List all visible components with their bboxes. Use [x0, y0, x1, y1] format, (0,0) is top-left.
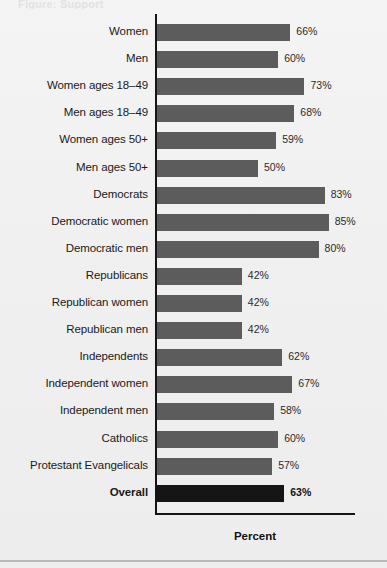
bar-value-label: 42% [248, 266, 269, 285]
bar-row: Catholics60% [0, 431, 387, 448]
x-axis-line [155, 513, 355, 515]
bar-value-label: 63% [290, 483, 311, 502]
bar [157, 241, 319, 258]
bar-row: Women ages 18–4973% [0, 78, 387, 95]
bar-value-label: 60% [284, 429, 305, 448]
bar-row: Independent men58% [0, 403, 387, 420]
bar-row: Republican men42% [0, 322, 387, 339]
bar-value-label: 57% [278, 456, 299, 475]
bar [157, 214, 329, 231]
bar-chart-figure: Figure: Support Women66%Men60%Women ages… [0, 0, 387, 568]
bar-value-label: 83% [331, 185, 352, 204]
plot-area: Women66%Men60%Women ages 18–4973%Men age… [0, 14, 387, 526]
bar [157, 24, 290, 41]
bar [157, 322, 242, 339]
bar [157, 268, 242, 285]
bar [157, 51, 278, 68]
bar-row: Democratic women85% [0, 214, 387, 231]
bar [157, 376, 292, 393]
bar-category-label: Democratic men [0, 239, 148, 258]
bar-category-label: Democrats [0, 185, 148, 204]
bar [157, 78, 304, 95]
bar-value-label: 85% [335, 212, 356, 231]
bar [157, 431, 278, 448]
bar-row: Men ages 50+50% [0, 160, 387, 177]
bar [157, 295, 242, 312]
bar-category-label: Women ages 50+ [0, 130, 148, 149]
bar-row: Democratic men80% [0, 241, 387, 258]
bar-row: Men60% [0, 51, 387, 68]
bar-row: Republican women42% [0, 295, 387, 312]
bar-category-label: Independent women [0, 374, 148, 393]
bar-category-label: Men ages 50+ [0, 158, 148, 177]
bar-category-label: Republicans [0, 266, 148, 285]
bar [157, 485, 284, 502]
x-axis-label: Percent [155, 530, 355, 542]
bar [157, 403, 274, 420]
bar-row: Republicans42% [0, 268, 387, 285]
bar [157, 105, 294, 122]
bar-row: Men ages 18–4968% [0, 105, 387, 122]
bar-row: Women ages 50+59% [0, 132, 387, 149]
bar-category-label: Republican women [0, 293, 148, 312]
bar [157, 187, 325, 204]
bar-value-label: 42% [248, 293, 269, 312]
bottom-divider [0, 560, 387, 562]
bar-value-label: 80% [325, 239, 346, 258]
bar-value-label: 58% [280, 401, 301, 420]
bar-category-label: Women [0, 22, 148, 41]
bar-value-label: 68% [300, 103, 321, 122]
bar-category-label: Protestant Evangelicals [0, 456, 148, 475]
bar-value-label: 59% [282, 130, 303, 149]
bar-category-label: Democratic women [0, 212, 148, 231]
bar-category-label: Republican men [0, 320, 148, 339]
bar-value-label: 67% [298, 374, 319, 393]
bar-category-label: Catholics [0, 429, 148, 448]
bar-category-label: Independents [0, 347, 148, 366]
bar [157, 132, 276, 149]
bar-category-label: Independent men [0, 401, 148, 420]
bar-category-label: Women ages 18–49 [0, 76, 148, 95]
bar [157, 160, 258, 177]
cropped-title-remnant: Figure: Support [18, 0, 218, 9]
bar-category-label: Men ages 18–49 [0, 103, 148, 122]
bar-row: Independent women67% [0, 376, 387, 393]
bar-row: Independents62% [0, 349, 387, 366]
bar-row: Overall63% [0, 485, 387, 502]
bar-category-label: Men [0, 49, 148, 68]
bar-value-label: 66% [296, 22, 317, 41]
y-axis-line [155, 14, 157, 513]
bar-row: Democrats83% [0, 187, 387, 204]
bar-value-label: 50% [264, 158, 285, 177]
bar-row: Women66% [0, 24, 387, 41]
bar-value-label: 62% [288, 347, 309, 366]
bar-value-label: 73% [310, 76, 331, 95]
bar-category-label: Overall [0, 483, 148, 502]
bar [157, 349, 282, 366]
bar [157, 458, 272, 475]
bar-value-label: 42% [248, 320, 269, 339]
bar-row: Protestant Evangelicals57% [0, 458, 387, 475]
bar-value-label: 60% [284, 49, 305, 68]
